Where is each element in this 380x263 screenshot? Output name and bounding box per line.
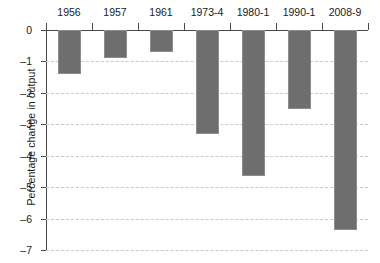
y-tick-label: –3: [0, 118, 32, 130]
bar: [58, 30, 81, 74]
y-tick-mark: [41, 61, 46, 62]
category-label: 1957: [103, 6, 126, 18]
category-label: 1961: [149, 6, 172, 18]
bar: [104, 30, 127, 58]
y-tick-label: –1: [0, 55, 32, 67]
y-axis-spine: [46, 30, 47, 250]
bar: [196, 30, 219, 134]
category-label: 1956: [57, 6, 80, 18]
gridline: [46, 187, 368, 188]
y-tick-mark: [41, 93, 46, 94]
category-tick: [230, 23, 231, 30]
gridline: [46, 219, 368, 220]
y-tick-label: –7: [0, 244, 32, 256]
bar-chart: Percentage change in output 0–1–2–3–4–5–…: [0, 0, 380, 263]
category-tick: [276, 23, 277, 30]
y-tick-mark: [41, 156, 46, 157]
bar: [288, 30, 311, 109]
y-tick-mark: [41, 30, 46, 31]
category-label: 1980-1: [237, 6, 270, 18]
plot-area: 0–1–2–3–4–5–6–7 1956195719611973-41980-1…: [46, 30, 368, 250]
category-tick: [46, 23, 47, 30]
category-tick: [368, 23, 369, 30]
y-tick-label: –4: [0, 150, 32, 162]
category-tick: [184, 23, 185, 30]
category-label: 2008-9: [329, 6, 362, 18]
category-tick: [92, 23, 93, 30]
y-tick-mark: [41, 219, 46, 220]
bar: [150, 30, 173, 52]
y-tick-label: 0: [0, 24, 32, 36]
category-tick: [138, 23, 139, 30]
category-tick: [322, 23, 323, 30]
y-tick-label: –5: [0, 181, 32, 193]
bar: [334, 30, 357, 230]
category-label: 1990-1: [283, 6, 316, 18]
y-tick-label: –6: [0, 213, 32, 225]
category-label: 1973-4: [191, 6, 224, 18]
gridline: [46, 156, 368, 157]
bar: [242, 30, 265, 176]
y-tick-mark: [41, 124, 46, 125]
y-tick-label: –2: [0, 87, 32, 99]
y-tick-mark: [41, 250, 46, 251]
gridline: [46, 250, 368, 251]
y-tick-mark: [41, 187, 46, 188]
